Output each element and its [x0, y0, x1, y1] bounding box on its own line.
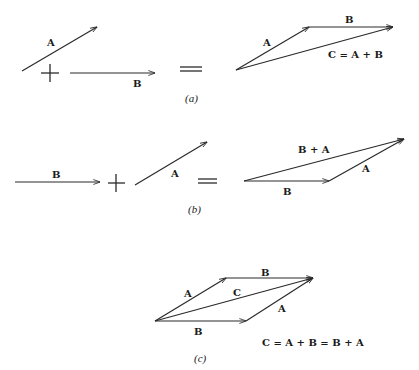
label-lower-a: A	[277, 303, 286, 314]
vector-c-a-upper	[155, 278, 226, 321]
vector-a-result-a	[236, 27, 309, 70]
label-upper-a: A	[183, 288, 192, 299]
vector-c-diagonal	[155, 278, 313, 321]
panel-b: B A B + A A B (b)	[15, 139, 404, 216]
caption-c: (c)	[194, 352, 207, 365]
label-result-a: A	[361, 163, 370, 174]
label-b: B	[52, 169, 60, 180]
label-b: B	[133, 78, 141, 89]
label-result-c: C = A + B	[328, 49, 383, 60]
vector-b-result-a	[329, 139, 404, 181]
label-result-a: A	[262, 37, 271, 48]
vector-c-a-lower	[246, 278, 313, 321]
label-a: A	[170, 168, 179, 179]
label-result-b: B	[345, 14, 353, 25]
equals-sign	[198, 179, 217, 183]
label-result-b: B	[283, 186, 291, 197]
vector-a-operand-a	[22, 27, 97, 71]
label-upper-b: B	[261, 267, 269, 278]
equation: C = A + B = B + A	[262, 337, 364, 348]
label-a: A	[46, 37, 55, 48]
label-diagonal-c: C	[233, 287, 241, 298]
vector-addition-diagram: A B A B C = A + B (a) B A	[0, 0, 419, 370]
equals-sign	[180, 67, 202, 71]
panel-a: A B A B C = A + B (a)	[22, 14, 393, 105]
caption-a: (a)	[185, 92, 198, 105]
caption-b: (b)	[188, 203, 201, 216]
panel-c: A B C A B C = A + B = B + A (c)	[155, 267, 364, 365]
label-lower-b: B	[194, 326, 202, 337]
plus-sign	[108, 174, 125, 192]
plus-sign	[41, 64, 59, 82]
label-result-sum: B + A	[298, 144, 330, 155]
